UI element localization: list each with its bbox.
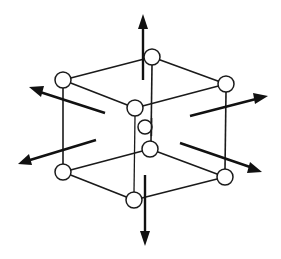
arrow-upper-left-icon	[29, 86, 105, 113]
edge-bottom-back-left	[63, 149, 150, 172]
edge-bottom-right-front	[134, 177, 225, 200]
atom-top-back	[144, 49, 160, 65]
atom-bottom-left	[55, 164, 71, 180]
atom-top-left	[55, 72, 71, 88]
edge-top-right-front	[135, 84, 226, 108]
atom-bottom-back	[142, 141, 158, 157]
arrow-up-icon	[138, 14, 148, 80]
edge-top-back-right	[152, 57, 226, 84]
arrow-down-icon	[140, 175, 150, 246]
lattice-diagram	[0, 0, 281, 259]
edge-top-back-left	[63, 57, 152, 80]
arrow-lower-left-icon	[18, 140, 96, 165]
edge-bottom-left-front	[63, 172, 134, 200]
arrow-upper-right-icon	[190, 93, 268, 116]
atom-top-front	[127, 100, 143, 116]
arrow-lower-right-icon	[180, 143, 262, 173]
edge-bottom-back-right	[150, 149, 225, 177]
atom-top-right	[218, 76, 234, 92]
lattice-svg	[0, 0, 281, 259]
atom-bottom-right	[217, 169, 233, 185]
atom-center	[138, 120, 152, 134]
atom-bottom-front	[126, 192, 142, 208]
